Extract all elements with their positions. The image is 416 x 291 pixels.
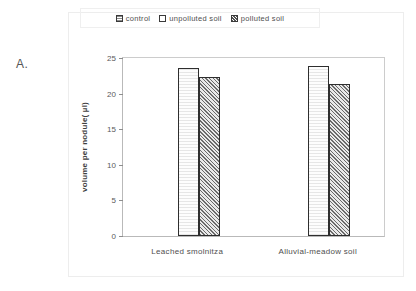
- legend-label-control: control: [126, 14, 151, 23]
- y-axis-tick-label: 20: [107, 89, 116, 98]
- y-axis-tick-label: 15: [107, 125, 116, 134]
- plot-inner: 0510152025: [123, 58, 384, 236]
- dotted-square-icon: [116, 15, 123, 22]
- y-axis-tick: [119, 58, 123, 59]
- y-axis-tick: [119, 94, 123, 95]
- y-axis-tick: [119, 129, 123, 130]
- bar-unpolluted-soil-1: [308, 66, 329, 236]
- bar-unpolluted-soil-0: [178, 68, 199, 236]
- legend-item-unpolluted-soil: unpolluted soil: [159, 14, 221, 23]
- y-axis-tick: [119, 200, 123, 201]
- y-axis-title: volume per nodule( µl): [80, 102, 89, 192]
- y-axis-tick-label: 5: [112, 196, 116, 205]
- bar-polluted-soil-0: [199, 77, 220, 236]
- crosshatch-square-icon: [231, 15, 238, 22]
- legend-item-polluted-soil: polluted soil: [231, 14, 285, 23]
- legend-label-unpolluted-soil: unpolluted soil: [169, 14, 221, 23]
- y-axis-tick-label: 10: [107, 160, 116, 169]
- legend-item-control: control: [116, 14, 151, 23]
- panel-label: A.: [16, 57, 28, 71]
- open-square-icon: [159, 15, 166, 22]
- x-axis-category-label: Leached smolnitza: [151, 247, 223, 256]
- legend-label-polluted-soil: polluted soil: [241, 14, 285, 23]
- y-axis-tick: [119, 165, 123, 166]
- y-axis-tick-label: 0: [112, 232, 116, 241]
- y-axis-tick: [119, 236, 123, 237]
- bar-polluted-soil-1: [329, 84, 350, 236]
- chart-legend: control unpolluted soil polluted soil: [80, 8, 320, 28]
- y-axis-tick-label: 25: [107, 54, 116, 63]
- plot-area: 0510152025: [122, 57, 385, 237]
- x-axis-category-label: Alluvial-meadow soil: [279, 247, 357, 256]
